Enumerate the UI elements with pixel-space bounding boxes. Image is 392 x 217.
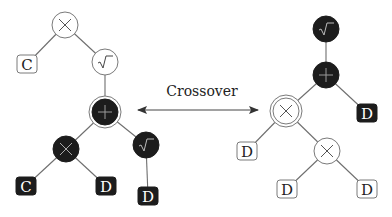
terminal-label: D: [281, 181, 293, 199]
terminal-label: D: [142, 188, 154, 206]
operator-node-times: [314, 138, 340, 164]
terminal-node-d: D: [96, 177, 116, 196]
terminal-label: C: [21, 56, 32, 74]
operator-node-plus: [313, 62, 339, 88]
terminal-label: D: [361, 181, 373, 199]
operator-node-sqrt: [313, 16, 339, 42]
terminal-node-c: C: [17, 55, 37, 74]
terminal-label: D: [361, 105, 373, 123]
operator-node-plus: [89, 96, 121, 128]
crossover-diagram: Crossover CCDDDDDD: [0, 0, 392, 217]
terminal-node-d: D: [237, 142, 257, 161]
crossover-label: Crossover: [166, 83, 238, 99]
operator-node-times: [270, 95, 302, 127]
terminal-node-d: D: [357, 104, 377, 123]
operator-node-times: [52, 12, 78, 38]
terminal-node-d: D: [357, 180, 377, 199]
operator-node-sqrt: [92, 49, 118, 75]
operator-node-sqrt: [133, 132, 159, 158]
crossover-arrow: Crossover: [138, 83, 258, 110]
tree-nodes: CCDDDDDD: [16, 12, 377, 206]
terminal-label: C: [20, 178, 31, 196]
operator-node-times: [53, 136, 79, 162]
terminal-node-c: C: [16, 177, 36, 196]
terminal-node-d: D: [277, 180, 297, 199]
terminal-label: D: [241, 143, 253, 161]
terminal-label: D: [100, 178, 112, 196]
terminal-node-d: D: [138, 187, 158, 206]
